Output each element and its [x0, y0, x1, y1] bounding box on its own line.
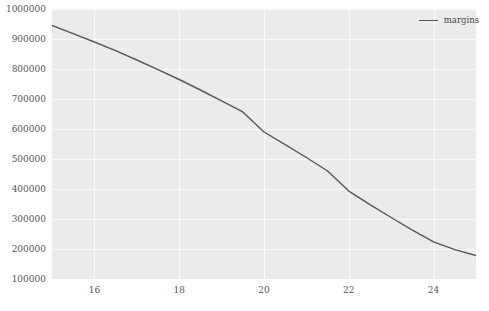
x-axis-tick-labels: 1618202224 — [0, 0, 489, 311]
legend-line-swatch — [419, 20, 438, 21]
legend-label-margins: margins — [444, 15, 479, 25]
chart-legend: margins — [415, 13, 483, 27]
x-tick-label-24: 24 — [414, 285, 454, 295]
x-tick-label-16: 16 — [74, 285, 114, 295]
chart-figure: 1000002000003000004000005000006000007000… — [0, 0, 489, 311]
x-tick-label-18: 18 — [159, 285, 199, 295]
x-tick-label-20: 20 — [244, 285, 284, 295]
x-tick-label-22: 22 — [329, 285, 369, 295]
